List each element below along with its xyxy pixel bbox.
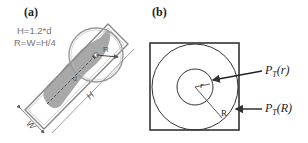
inner-radius-label: r [200,80,204,90]
diagram-canvas: R d W H r R [0,0,308,143]
outer-radius-label: R [221,108,227,118]
annotation-inner: PT(r) [265,63,289,79]
panel-b-drawing: r R [150,43,262,130]
height-label: H [84,90,96,102]
radius-label-a: R [103,45,109,54]
annotation-outer: PT(R) [265,101,292,117]
panel-a-drawing: R d W H [20,24,134,133]
center-label-a: d [73,75,77,82]
